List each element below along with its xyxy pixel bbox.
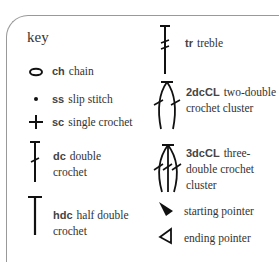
double-crochet-icon xyxy=(28,140,42,184)
key-entry-starting-pointer: starting pointer xyxy=(184,203,254,219)
label: starting pointer xyxy=(184,205,254,217)
abbr: ch xyxy=(52,65,65,77)
three-dc-cluster-icon xyxy=(151,142,185,194)
chain-oval-icon xyxy=(28,67,44,77)
label: treble xyxy=(197,37,223,49)
two-dc-cluster-icon xyxy=(151,79,183,131)
abbr: hdc xyxy=(53,209,73,221)
label: ending pointer xyxy=(184,232,251,244)
key-entry-two-dc-cluster: 2dcCLtwo-double crochet cluster xyxy=(186,84,276,116)
treble-icon xyxy=(158,24,172,76)
key-entry-single-crochet: scsingle crochet xyxy=(52,114,132,130)
starting-pointer-icon xyxy=(157,200,175,218)
abbr: 3dcCL xyxy=(186,147,220,159)
abbr: ss xyxy=(52,93,64,105)
key-entry-half-double-crochet: hdchalf double crochet xyxy=(53,207,138,239)
single-crochet-plus-icon xyxy=(27,113,45,131)
abbr: tr xyxy=(185,37,193,49)
key-frame xyxy=(6,15,279,262)
abbr: dc xyxy=(53,150,66,162)
key-entry-three-dc-cluster: 3dcCLthree-double crochet cluster xyxy=(186,145,276,193)
key-entry-chain: chchain xyxy=(52,63,94,79)
key-entry-slip-stitch: ssslip stitch xyxy=(52,91,113,107)
label: slip stitch xyxy=(68,93,112,105)
ending-pointer-icon xyxy=(157,226,175,246)
abbr: 2dcCL xyxy=(186,86,220,98)
key-title: key xyxy=(27,29,49,46)
key-entry-ending-pointer: ending pointer xyxy=(184,230,251,246)
slip-stitch-dot-icon xyxy=(33,96,39,102)
key-entry-treble: trtreble xyxy=(185,35,223,51)
half-double-crochet-icon xyxy=(27,195,43,237)
label: chain xyxy=(69,65,94,77)
label: single crochet xyxy=(68,116,132,128)
key-entry-double-crochet: dcdouble crochet xyxy=(53,148,128,180)
abbr: sc xyxy=(52,116,64,128)
